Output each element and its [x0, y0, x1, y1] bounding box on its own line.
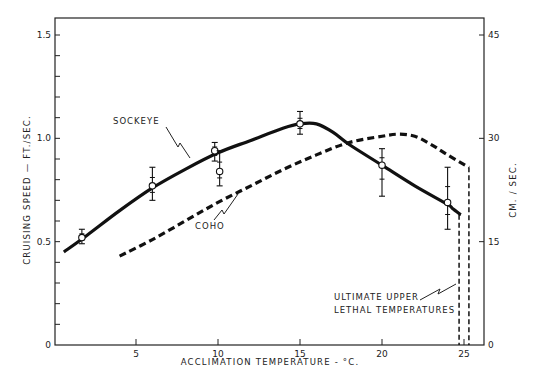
lethal-label-line2: LETHAL TEMPERATURES	[334, 305, 455, 315]
y-axis-title: CRUISING SPEED — FT./SEC.	[22, 115, 32, 265]
data-point	[297, 121, 303, 127]
y-tick-label: 0	[45, 340, 51, 350]
x-tick-label: 5	[133, 349, 139, 359]
y-tick-label: 0.5	[37, 237, 51, 247]
x-axis-title: ACCLIMATION TEMPERATURE - °C.	[181, 357, 360, 367]
plot-border	[55, 18, 484, 345]
data-point	[444, 199, 450, 205]
y-right-tick-label: 0	[488, 340, 494, 350]
sockeye-curve	[64, 123, 461, 252]
sockeye-label: SOCKEYE	[113, 116, 160, 126]
data-point	[216, 168, 222, 174]
y-right-axis-title: CM. / SEC.	[508, 162, 518, 218]
y-right-tick-label: 30	[488, 133, 500, 143]
coho-label: COHO	[195, 221, 225, 231]
y-tick-label: 1.0	[37, 133, 52, 143]
lethal-label-line1: ULTIMATE UPPER	[334, 292, 419, 302]
y-tick-label: 1.5	[37, 30, 51, 40]
data-point	[149, 183, 155, 189]
chart: 51015202500.51.01.50153045 ACCLIMATION T…	[0, 0, 538, 388]
x-tick-label: 20	[376, 349, 388, 359]
coho-curve	[120, 134, 469, 256]
y-right-tick-label: 45	[488, 30, 499, 40]
x-tick-label: 25	[458, 349, 469, 359]
data-point	[79, 234, 85, 240]
lethal-leader-arrow	[420, 284, 456, 300]
plot-frame	[55, 18, 484, 345]
sockeye-leader-arrow	[166, 127, 190, 158]
y-right-tick-label: 15	[488, 237, 499, 247]
data-point	[379, 162, 385, 168]
